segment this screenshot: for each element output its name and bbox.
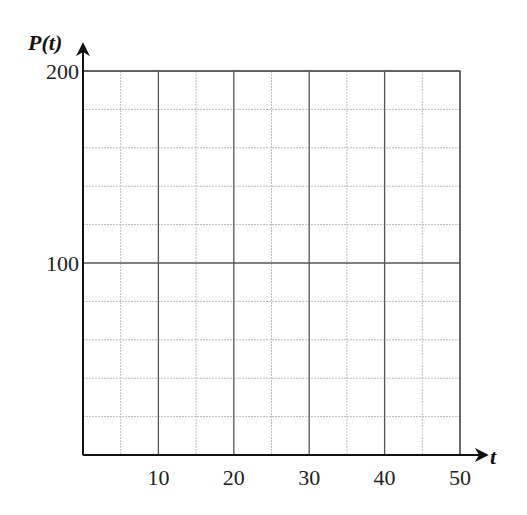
y-axis-label: P(t) [27,30,62,55]
x-tick-label: 20 [223,465,245,490]
x-tick-label: 10 [147,465,169,490]
y-tick-labels: 100200 [46,59,79,276]
x-axis-label: t [490,444,497,469]
x-tick-labels: 1020304050 [147,465,471,490]
y-tick-label: 100 [46,251,79,276]
y-tick-label: 200 [46,59,79,84]
x-tick-label: 40 [374,465,396,490]
x-tick-label: 30 [298,465,320,490]
x-tick-label: 50 [449,465,471,490]
empty-graph-grid: 1020304050 100200 t P(t) [0,0,527,515]
axes [83,45,486,455]
